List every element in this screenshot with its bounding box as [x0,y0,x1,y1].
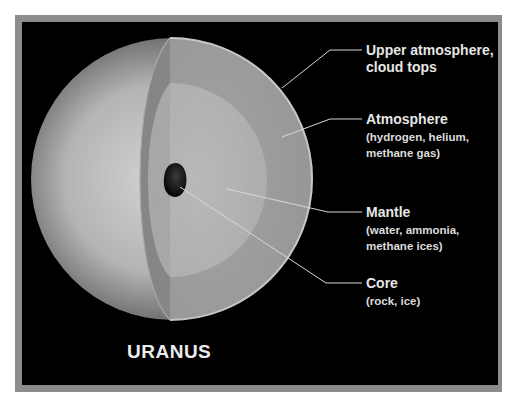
label-mantle-subtitle-line1: (water, ammonia, [366,223,459,239]
core [164,163,187,197]
label-atmosphere: Atmosphere (hydrogen, helium, methane ga… [366,111,469,161]
label-mantle-title: Mantle [366,204,459,220]
planet-name-title: URANUS [127,341,211,363]
label-mantle-subtitle-line2: methane ices) [366,239,459,255]
label-atmosphere-subtitle-line2: methane gas) [366,146,469,162]
label-core-subtitle: (rock, ice) [366,294,420,310]
label-upper-atmosphere: Upper atmosphere, cloud tops [366,42,494,75]
label-upper-atmosphere-title-line2: cloud tops [366,59,494,75]
label-atmosphere-title: Atmosphere [366,111,469,127]
label-atmosphere-subtitle-line1: (hydrogen, helium, [366,130,469,146]
label-core-title: Core [366,275,420,291]
label-mantle: Mantle (water, ammonia, methane ices) [366,204,459,254]
label-upper-atmosphere-title: Upper atmosphere, [366,42,494,58]
label-core: Core (rock, ice) [366,275,420,310]
